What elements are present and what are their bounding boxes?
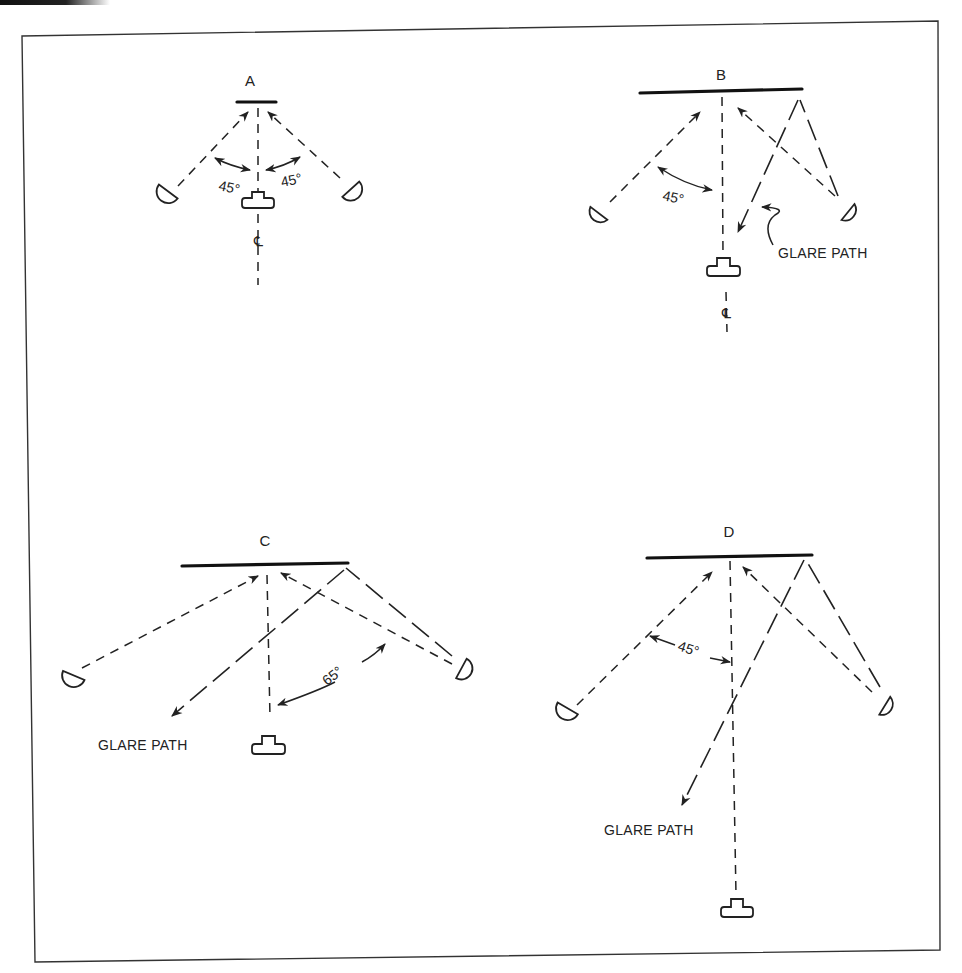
camera-icon — [252, 736, 285, 754]
lamp-icon — [841, 202, 857, 222]
panel-d-centerline — [730, 561, 736, 895]
lamp-icon — [588, 203, 608, 224]
panel-d: D 45° GLARE PATH — [554, 523, 895, 917]
camera-icon — [721, 899, 753, 917]
panel-c-left-ray — [82, 576, 258, 668]
panel-a-left-ray — [178, 112, 248, 186]
panel-a-label: A — [245, 72, 255, 89]
panel-c-label: C — [260, 532, 271, 549]
panel-b-centerline-upper — [722, 97, 723, 255]
panel-c-centerline — [267, 575, 270, 718]
panel-b-left-ray — [610, 112, 700, 202]
panel-c-angle: 65° — [319, 663, 346, 689]
panel-d-angle-arc-b — [710, 658, 730, 662]
camera-icon — [707, 258, 740, 276]
lamp-icon — [456, 657, 474, 681]
panel-c-screen — [182, 563, 348, 566]
panel-d-angle-arc-a — [650, 636, 675, 645]
panel-b: B ℄ 45° GLARE PATH — [588, 66, 868, 332]
panel-d-label: D — [724, 523, 735, 540]
panel-d-edge-ray — [806, 560, 880, 687]
lamp-icon — [554, 697, 579, 723]
lamp-icon — [342, 179, 364, 202]
panel-b-glare-path — [738, 100, 798, 232]
lamp-icon — [60, 665, 86, 690]
panel-c-glare-path — [172, 570, 344, 716]
camera-icon — [242, 192, 274, 208]
panel-d-left-ray — [577, 572, 712, 705]
panel-d-right-ray — [743, 567, 872, 692]
panel-c-glare-label: GLARE PATH — [98, 737, 188, 753]
panel-a-angle-right: 45° — [279, 170, 303, 190]
panel-b-angle: 45° — [661, 187, 685, 207]
panel-b-screen — [640, 89, 802, 93]
panel-d-angle: 45° — [676, 638, 701, 660]
panel-a-angle-arc-right — [266, 157, 300, 170]
panel-b-label: B — [716, 66, 726, 83]
panel-b-glare-label: GLARE PATH — [778, 245, 868, 261]
panel-c-right-ray — [281, 573, 452, 664]
panel-a: A ℄ 45° 45° — [155, 72, 363, 285]
figure-frame — [22, 21, 940, 962]
diagram-canvas: A ℄ 45° 45° B ℄ 45° — [0, 0, 962, 973]
panel-a-angle-arc-left — [215, 158, 250, 170]
panel-d-screen — [647, 555, 812, 558]
panel-c-angle-arc-b — [362, 644, 385, 662]
centerline-icon: ℄ — [721, 305, 731, 321]
panel-d-glare-label: GLARE PATH — [604, 822, 694, 838]
lamp-icon — [155, 182, 178, 205]
panel-c: C 65° GLARE PATH — [60, 532, 474, 754]
panel-b-glare-pointer — [762, 207, 779, 245]
lamp-icon — [879, 695, 894, 717]
panel-a-right-ray — [268, 112, 340, 178]
panel-d-glare-path — [682, 560, 804, 805]
panel-c-edge-ray — [346, 568, 452, 656]
panel-a-angle-left: 45° — [217, 177, 241, 197]
centerline-icon: ℄ — [253, 233, 263, 249]
panel-b-angle-arc — [658, 167, 712, 190]
